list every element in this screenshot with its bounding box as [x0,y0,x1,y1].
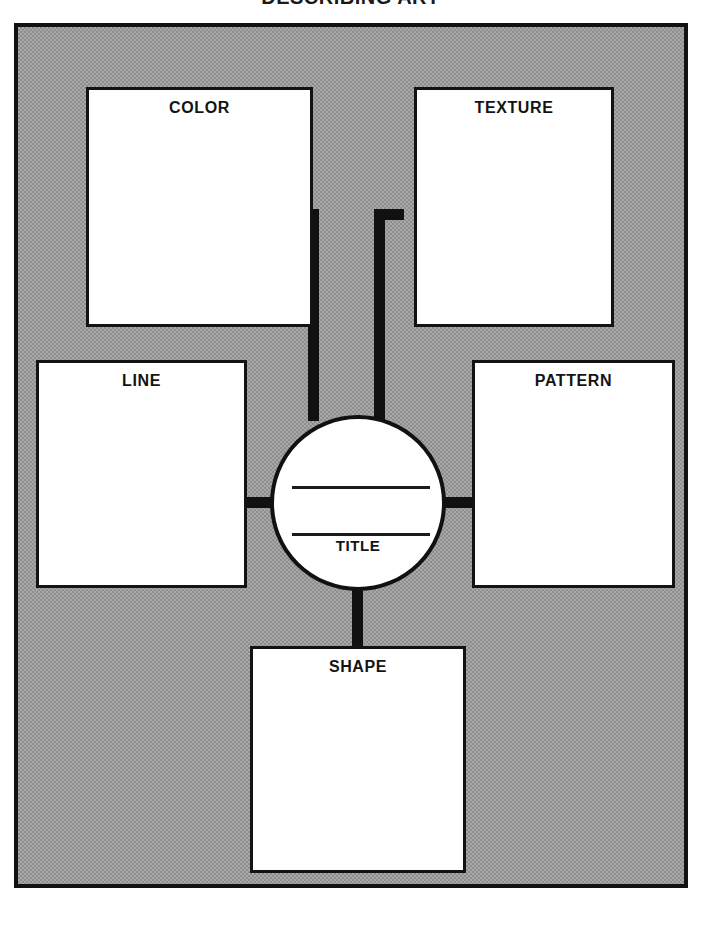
node-label-line: LINE [39,372,244,390]
node-box-line[interactable]: LINE [36,360,247,588]
node-label-color: COLOR [89,99,310,117]
node-box-pattern[interactable]: PATTERN [472,360,675,588]
node-label-shape: SHAPE [253,658,463,676]
connector-center-to-pattern [442,497,476,508]
node-box-shape[interactable]: SHAPE [250,646,466,873]
connector-center-to-texture-elbow [374,209,404,220]
node-label-texture: TEXTURE [417,99,611,117]
connector-center-to-texture [374,209,385,421]
node-box-color[interactable]: COLOR [86,87,313,327]
node-box-texture[interactable]: TEXTURE [414,87,614,327]
center-circle-label: TITLE [274,537,442,554]
diagram-frame: COLOR TEXTURE LINE PATTERN SHAPE TITLE [14,23,688,888]
title-writing-line-2 [292,533,430,536]
center-circle-title[interactable]: TITLE [270,415,446,591]
connector-center-to-shape [352,583,363,649]
title-writing-line-1 [292,486,430,489]
page-title: DESCRIBING ART [0,0,701,9]
node-label-pattern: PATTERN [475,372,672,390]
